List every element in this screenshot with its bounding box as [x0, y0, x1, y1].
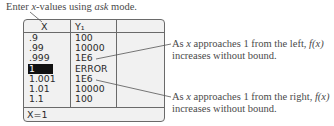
right-limit-pointer-line	[96, 80, 171, 97]
annotation-left-limit: As x approaches 1 from the left, f(x) in…	[172, 38, 324, 62]
left-limit-pointer-line	[96, 44, 171, 59]
annotation-right-limit: As x approaches 1 from the right, f(x) i…	[172, 91, 329, 115]
caption-pointer-line	[30, 12, 42, 22]
